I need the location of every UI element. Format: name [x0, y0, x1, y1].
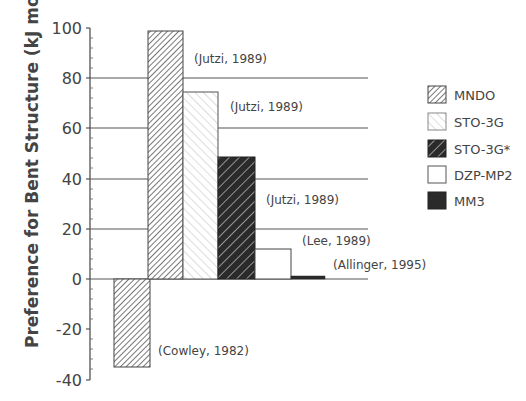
tick-label: 80	[62, 69, 82, 88]
tick-label: 0	[72, 270, 82, 289]
legend-label-mm3: MM3	[454, 194, 485, 209]
tick-label: 100	[51, 19, 82, 38]
tick-label: -20	[56, 320, 82, 339]
bar-mndo-jutzi	[148, 31, 183, 279]
tick-label: 40	[62, 170, 82, 189]
bar-mndo-cowley	[114, 279, 150, 367]
tick-label: 60	[62, 119, 82, 138]
annotation-lee: (Lee, 1989)	[302, 234, 371, 248]
legend-label-sto3g-star: STO-3G*	[454, 142, 511, 157]
tick-label: 20	[62, 220, 82, 239]
bar-mm3	[291, 276, 325, 279]
y-tick-labels: 100 80 60 40 20 0 -20 -40	[51, 19, 82, 390]
legend-label-dzp-mp2: DZP-MP2	[454, 168, 513, 183]
bar-sto3g-star	[218, 157, 255, 279]
legend-swatch-mm3	[428, 192, 446, 209]
legend-label-sto3g: STO-3G	[454, 115, 504, 130]
bar-sto3g	[183, 92, 218, 279]
chart: 100 80 60 40 20 0 -20 -40 (Cowley, 1982)…	[0, 0, 526, 401]
legend-swatch-sto3g	[428, 113, 446, 130]
legend-label-mndo: MNDO	[454, 88, 495, 103]
legend-swatch-mndo	[428, 86, 446, 103]
annotation-allinger: (Allinger, 1995)	[333, 258, 426, 272]
annotation-cowley: (Cowley, 1982)	[158, 344, 249, 358]
annotation-jutzi-mndo: (Jutzi, 1989)	[194, 52, 267, 66]
legend: MNDO STO-3G STO-3G* DZP-MP2 MM3	[428, 86, 513, 209]
bar-dzp-mp2	[255, 249, 291, 279]
annotation-jutzi-sto3gstar: (Jutzi, 1989)	[266, 193, 339, 207]
annotation-jutzi-sto3g: (Jutzi, 1989)	[230, 100, 303, 114]
tick-label: -40	[56, 371, 82, 390]
legend-swatch-dzp-mp2	[428, 166, 446, 183]
legend-swatch-sto3g-star	[428, 140, 446, 157]
